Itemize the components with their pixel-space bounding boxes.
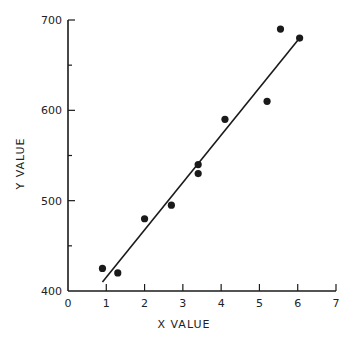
x-tick-label: 6: [294, 297, 301, 310]
data-point: [168, 202, 175, 209]
x-tick-label: 5: [256, 297, 263, 310]
data-point: [263, 98, 270, 105]
x-tick-label: 4: [218, 297, 225, 310]
data-point: [195, 170, 202, 177]
y-tick-label: 500: [41, 195, 62, 208]
x-tick-label: 1: [103, 297, 110, 310]
x-tick-label: 2: [141, 297, 148, 310]
data-point: [221, 116, 228, 123]
axes: [68, 20, 336, 291]
x-axis-title: X VALUE: [158, 318, 211, 331]
x-tick-label: 3: [179, 297, 186, 310]
x-tick-label: 0: [65, 297, 72, 310]
axis-labels: 01234567400500600700X VALUEY VALUE: [14, 14, 340, 331]
y-axis-title: Y VALUE: [14, 137, 27, 190]
y-tick-label: 600: [41, 104, 62, 117]
data-point: [141, 215, 148, 222]
x-tick-label: 7: [333, 297, 340, 310]
scatter-chart: 01234567400500600700X VALUEY VALUE: [0, 0, 353, 344]
y-tick-label: 700: [41, 14, 62, 27]
data-point: [195, 161, 202, 168]
data-points: [99, 25, 303, 276]
data-point: [296, 34, 303, 41]
data-point: [114, 269, 121, 276]
fit-line: [102, 38, 299, 282]
regression-line: [102, 38, 299, 282]
y-tick-label: 400: [41, 285, 62, 298]
data-point: [99, 265, 106, 272]
data-point: [277, 25, 284, 32]
